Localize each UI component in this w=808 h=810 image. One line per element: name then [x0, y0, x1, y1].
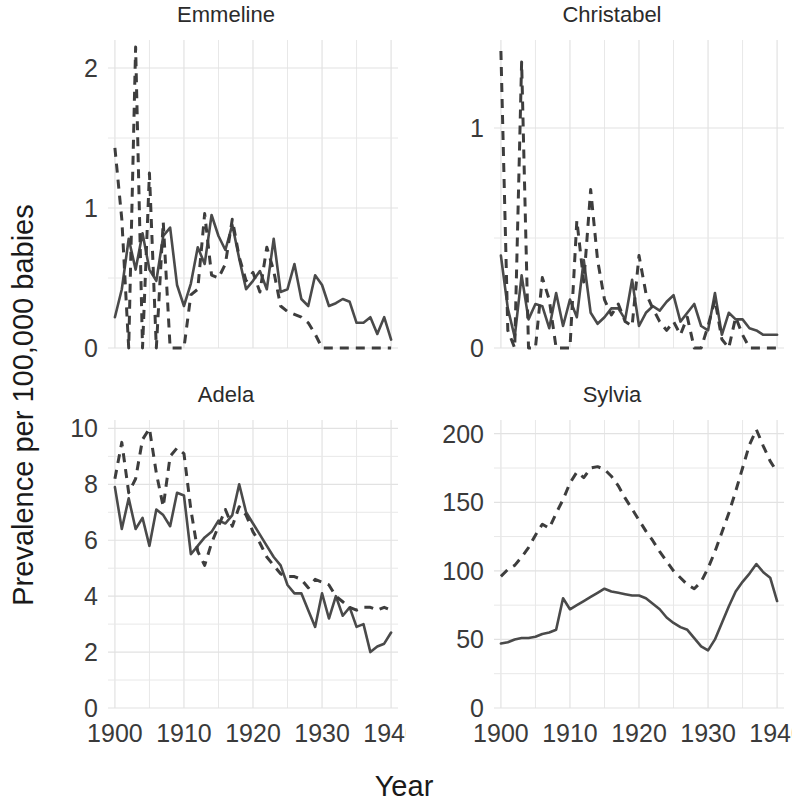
- x-tick-label: 1910: [542, 719, 598, 747]
- y-tick-label: 2: [84, 638, 98, 666]
- panel-title-sylvia: Sylvia: [432, 382, 792, 408]
- chart-page: Prevalence per 100,000 babies Year Emmel…: [0, 0, 808, 810]
- y-tick-label: 10: [70, 414, 98, 442]
- x-tick-label: 1920: [611, 719, 667, 747]
- panel-adela: Adela 024681019001910192019301940: [46, 382, 406, 772]
- y-tick-label: 6: [84, 526, 98, 554]
- panel-emmeline: Emmeline 012: [46, 2, 406, 370]
- x-tick-label: 1940: [749, 719, 792, 747]
- x-tick-label: 1900: [87, 719, 143, 747]
- y-tick-label: 8: [84, 470, 98, 498]
- y-tick-label: 0: [84, 334, 98, 362]
- panel-title-adela: Adela: [46, 382, 406, 408]
- y-tick-label: 2: [84, 54, 98, 82]
- x-tick-label: 1920: [225, 719, 281, 747]
- y-tick-label: 200: [442, 420, 484, 448]
- panel-title-christabel: Christabel: [432, 2, 792, 28]
- y-tick-label: 0: [84, 694, 98, 722]
- panel-title-emmeline: Emmeline: [46, 2, 406, 28]
- x-tick-label: 1900: [473, 719, 529, 747]
- x-tick-label: 1930: [294, 719, 350, 747]
- plot-adela: 024681019001910192019301940: [46, 410, 406, 768]
- plot-emmeline: 012: [46, 30, 406, 370]
- panel-sylvia: Sylvia 05010015020019001910192019301940: [432, 382, 792, 772]
- y-tick-label: 150: [442, 488, 484, 516]
- y-tick-label: 1: [470, 114, 484, 142]
- y-tick-label: 4: [84, 582, 98, 610]
- x-axis-label: Year: [0, 770, 808, 803]
- y-tick-label: 0: [470, 334, 484, 362]
- y-tick-label: 50: [456, 625, 484, 653]
- y-tick-label: 1: [84, 194, 98, 222]
- y-axis-label: Prevalence per 100,000 babies: [0, 0, 46, 810]
- plot-christabel: 01: [432, 30, 792, 370]
- panel-christabel: Christabel 01: [432, 2, 792, 370]
- x-tick-label: 1940: [363, 719, 406, 747]
- x-tick-label: 1910: [156, 719, 212, 747]
- y-tick-label: 0: [470, 694, 484, 722]
- y-tick-label: 100: [442, 557, 484, 585]
- plot-sylvia: 05010015020019001910192019301940: [432, 410, 792, 768]
- x-tick-label: 1930: [680, 719, 736, 747]
